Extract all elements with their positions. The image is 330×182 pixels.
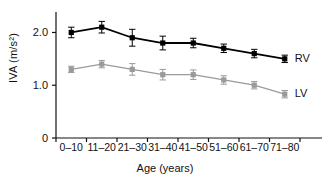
data-point-lv-4 — [190, 70, 196, 79]
chart-container: 2.0 1.0 0 IVA (m/s²) Age (years) 0–1011–… — [0, 0, 330, 182]
series-line-lv — [71, 64, 285, 94]
data-point-rv-1 — [99, 21, 105, 33]
legend-label-rv: RV — [295, 52, 310, 64]
data-point-lv-7 — [282, 91, 288, 98]
data-point-rv-4 — [190, 38, 196, 47]
data-point-rv-0 — [68, 27, 74, 38]
data-point-rv-3 — [160, 36, 166, 50]
data-point-rv-7 — [282, 55, 288, 62]
data-point-lv-2 — [129, 64, 135, 76]
data-point-lv-0 — [68, 66, 74, 72]
x-tick-label-4: 41–50 — [179, 141, 208, 153]
data-point-lv-6 — [251, 82, 257, 89]
x-tick-label-5: 51–60 — [209, 141, 238, 153]
x-tick-label-3: 31–40 — [148, 141, 177, 153]
x-tick-label-2: 21–30 — [118, 141, 147, 153]
data-point-rv-2 — [129, 29, 135, 46]
plot-area — [0, 0, 330, 182]
x-tick-label-6: 61–70 — [240, 141, 269, 153]
data-point-lv-3 — [160, 69, 166, 80]
x-tick-label-1: 11–20 — [88, 141, 116, 153]
data-point-rv-5 — [221, 44, 227, 52]
data-point-lv-1 — [99, 60, 105, 67]
x-tick-label-0: 0–10 — [60, 141, 83, 153]
x-tick-label-7: 71–80 — [270, 141, 299, 153]
data-point-rv-6 — [251, 49, 257, 57]
data-point-lv-5 — [221, 76, 227, 84]
legend-label-lv: LV — [295, 87, 308, 99]
